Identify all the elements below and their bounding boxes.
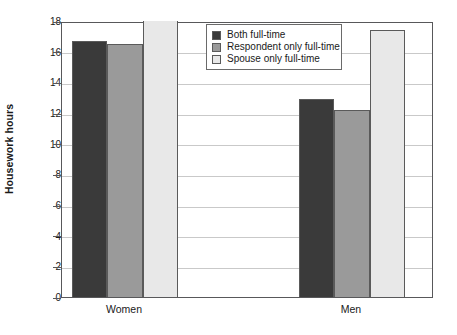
legend-item: Respondent only full-time xyxy=(212,41,335,53)
y-tick-mark xyxy=(53,267,61,268)
bar xyxy=(143,21,179,297)
legend-item-label: Both full-time xyxy=(227,30,285,40)
y-tick-mark xyxy=(53,298,61,299)
legend-item-label: Spouse only full-time xyxy=(227,54,320,64)
legend-item-label: Respondent only full-time xyxy=(227,42,340,52)
legend-swatch-icon xyxy=(212,55,221,64)
chart-legend: Both full-timeRespondent only full-timeS… xyxy=(206,24,342,70)
y-tick-mark xyxy=(53,236,61,237)
legend-swatch-icon xyxy=(212,43,221,52)
bar xyxy=(299,99,335,297)
legend-swatch-icon xyxy=(212,31,221,40)
y-axis-ticks: 024681012141618 xyxy=(0,0,61,335)
y-tick-mark xyxy=(53,83,61,84)
bar xyxy=(334,110,370,297)
y-tick-mark xyxy=(53,175,61,176)
bar xyxy=(370,30,406,297)
legend-item: Spouse only full-time xyxy=(212,53,335,65)
y-tick-mark xyxy=(53,206,61,207)
bar xyxy=(107,44,143,297)
x-tick-label: Men xyxy=(341,303,361,315)
y-tick-mark xyxy=(53,52,61,53)
y-tick-mark xyxy=(53,144,61,145)
x-axis-labels: WomenMen xyxy=(61,303,433,323)
legend-item: Both full-time xyxy=(212,29,335,41)
y-tick-mark xyxy=(53,114,61,115)
y-tick-mark xyxy=(53,22,61,23)
bar-chart: Housework hours 024681012141618 WomenMen… xyxy=(0,0,457,335)
bar xyxy=(72,41,108,297)
x-tick-label: Women xyxy=(106,303,142,315)
